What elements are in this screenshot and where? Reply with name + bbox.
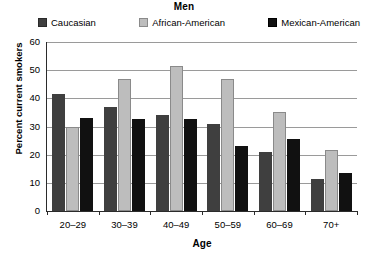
bar-caucasian <box>311 179 324 211</box>
x-tick-label: 20–29 <box>47 219 99 230</box>
bar-group <box>150 42 202 211</box>
x-tick-mark <box>150 211 151 215</box>
x-tick-mark <box>254 211 255 215</box>
y-tick-label: 60 <box>18 37 40 47</box>
bar-group <box>305 42 357 211</box>
bar-group <box>254 42 306 211</box>
y-tick-label: 30 <box>18 122 40 132</box>
bar-caucasian <box>156 115 169 211</box>
chart-legend: Caucasian African-American Mexican-Ameri… <box>38 15 360 29</box>
x-tick-label: 30–39 <box>99 219 151 230</box>
bar-mexican-american <box>339 173 352 211</box>
y-axis-ticks: 0102030405060 <box>12 42 40 212</box>
legend-item-caucasian: Caucasian <box>38 17 96 28</box>
legend-swatch-caucasian <box>38 18 47 27</box>
x-tick-mark <box>47 211 48 215</box>
bar-african-american <box>273 112 286 211</box>
plot-area <box>47 42 357 211</box>
bar-caucasian <box>104 107 117 211</box>
bar-mexican-american <box>132 119 145 211</box>
chart-title: Men <box>0 1 368 12</box>
legend-swatch-african-american <box>139 18 148 27</box>
bar-caucasian <box>52 94 65 211</box>
bar-group <box>202 42 254 211</box>
bar-group <box>99 42 151 211</box>
x-tick-label: 70+ <box>305 219 357 230</box>
bar-african-american <box>325 150 338 211</box>
legend-label-caucasian: Caucasian <box>51 17 96 28</box>
bar-mexican-american <box>235 146 248 211</box>
y-tick-label: 50 <box>18 65 40 75</box>
bar-chart-figure: Men Caucasian African-American Mexican-A… <box>0 0 368 264</box>
x-axis-tick-labels: 20–2930–3940–4950–5960–6970+ <box>47 219 357 233</box>
bar-african-american <box>118 79 131 211</box>
bar-african-american <box>221 79 234 211</box>
bar-african-american <box>170 66 183 211</box>
x-tick-label: 40–49 <box>150 219 202 230</box>
legend-label-mexican-american: Mexican-American <box>281 17 360 28</box>
legend-swatch-mexican-american <box>268 18 277 27</box>
x-tick-mark <box>202 211 203 215</box>
bar-group <box>47 42 99 211</box>
legend-label-african-american: African-American <box>152 17 225 28</box>
x-tick-label: 60–69 <box>254 219 306 230</box>
bar-mexican-american <box>80 118 93 211</box>
legend-item-african-american: African-American <box>139 17 225 28</box>
bar-caucasian <box>207 124 220 211</box>
bar-caucasian <box>259 152 272 211</box>
y-tick-label: 10 <box>18 178 40 188</box>
x-tick-mark <box>99 211 100 215</box>
x-tick-label: 50–59 <box>202 219 254 230</box>
y-tick-label: 0 <box>18 206 40 216</box>
legend-item-mexican-american: Mexican-American <box>268 17 360 28</box>
bar-mexican-american <box>184 119 197 211</box>
x-axis-title: Age <box>47 238 357 249</box>
y-tick-label: 40 <box>18 93 40 103</box>
y-tick-label: 20 <box>18 150 40 160</box>
x-tick-mark <box>357 211 358 215</box>
x-tick-mark <box>305 211 306 215</box>
bar-mexican-american <box>287 139 300 211</box>
bar-african-american <box>66 127 79 212</box>
bar-groups <box>47 42 357 211</box>
x-axis-ticks <box>47 211 357 216</box>
